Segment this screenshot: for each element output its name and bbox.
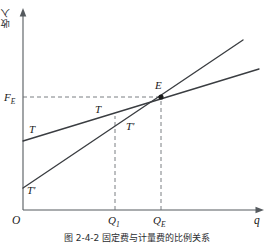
line-T-prime xyxy=(23,40,243,188)
line-T xyxy=(23,69,259,141)
x-tick-qe-sub: E xyxy=(160,220,166,229)
x-tick-label-qe: QE xyxy=(153,214,166,229)
intersection-point-E xyxy=(158,94,163,99)
y-axis-arrow-icon xyxy=(20,8,27,17)
figure-caption: 图 2-4-2 固定费与计量费的比例关系 xyxy=(0,232,274,244)
point-label-E: E xyxy=(154,79,162,91)
y-tick-fe-sub: E xyxy=(10,97,16,106)
y-tick-label-fe: FE xyxy=(3,91,16,106)
x-tick-q1-sub: 1 xyxy=(116,220,120,229)
x-tick-qe-base: Q xyxy=(153,214,161,226)
x-axis-arrow-icon xyxy=(256,207,265,213)
series-label-T-mid: T xyxy=(95,103,102,115)
chart-canvas: O q FE Q1 QE E T T T' T' xyxy=(0,0,274,246)
x-tick-q1-base: Q xyxy=(108,214,116,226)
origin-label: O xyxy=(12,214,21,226)
x-axis-label: q xyxy=(254,214,260,227)
series-label-Tprime-lower: T' xyxy=(27,184,36,196)
figure-container: 收入 O q FE Q1 QE E T xyxy=(0,0,274,246)
x-tick-label-q1: Q1 xyxy=(108,214,120,229)
series-label-Tprime-mid: T' xyxy=(126,120,135,132)
series-label-T-left: T xyxy=(29,123,36,135)
